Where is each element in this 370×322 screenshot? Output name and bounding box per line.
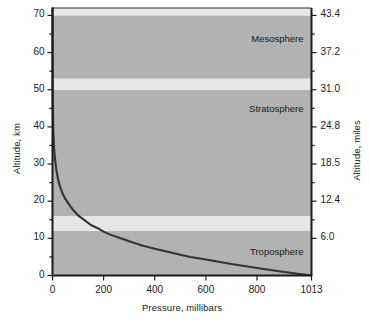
tick-label-left-20: 20 xyxy=(15,194,45,205)
tick-label-right-37.2: 37.2 xyxy=(321,46,355,57)
band-stratopause xyxy=(53,79,312,90)
band-mesopause xyxy=(53,8,312,15)
layer-label-troposphere: Troposphere xyxy=(250,246,304,257)
layer-label-stratosphere: Stratosphere xyxy=(249,103,303,114)
tick-label-bottom-1013: 1013 xyxy=(292,284,332,295)
layer-label-mesosphere: Mesosphere xyxy=(251,33,303,44)
y-axis-title-right: Altitude, miles xyxy=(351,111,362,191)
pressure-altitude-chart: 010203040506070 6.012.418.524.831.037.24… xyxy=(0,0,370,322)
tick-label-bottom-800: 800 xyxy=(237,284,277,295)
tick-label-right-24.8: 24.8 xyxy=(321,120,355,131)
chart-canvas xyxy=(0,0,370,322)
y-axis-title-left: Altitude, km xyxy=(11,109,22,189)
tick-label-right-43.4: 43.4 xyxy=(321,8,355,19)
tick-label-bottom-600: 600 xyxy=(186,284,226,295)
tick-label-bottom-400: 400 xyxy=(135,284,175,295)
tick-label-bottom-200: 200 xyxy=(84,284,124,295)
tick-label-left-70: 70 xyxy=(15,8,45,19)
tick-label-left-0: 0 xyxy=(15,269,45,280)
tick-label-bottom-0: 0 xyxy=(33,284,73,295)
band-mesosphere xyxy=(53,15,312,78)
tick-label-left-50: 50 xyxy=(15,83,45,94)
x-axis-title: Pressure, millibars xyxy=(112,302,252,313)
atmosphere-band-group xyxy=(53,8,312,276)
tick-label-right-12.4: 12.4 xyxy=(321,194,355,205)
tick-label-right-18.5: 18.5 xyxy=(321,157,355,168)
tick-label-right-6.0: 6.0 xyxy=(321,231,355,242)
band-tropopause xyxy=(53,216,312,231)
tick-label-right-31.0: 31.0 xyxy=(321,83,355,94)
tick-label-left-60: 60 xyxy=(15,46,45,57)
tick-label-left-10: 10 xyxy=(15,231,45,242)
